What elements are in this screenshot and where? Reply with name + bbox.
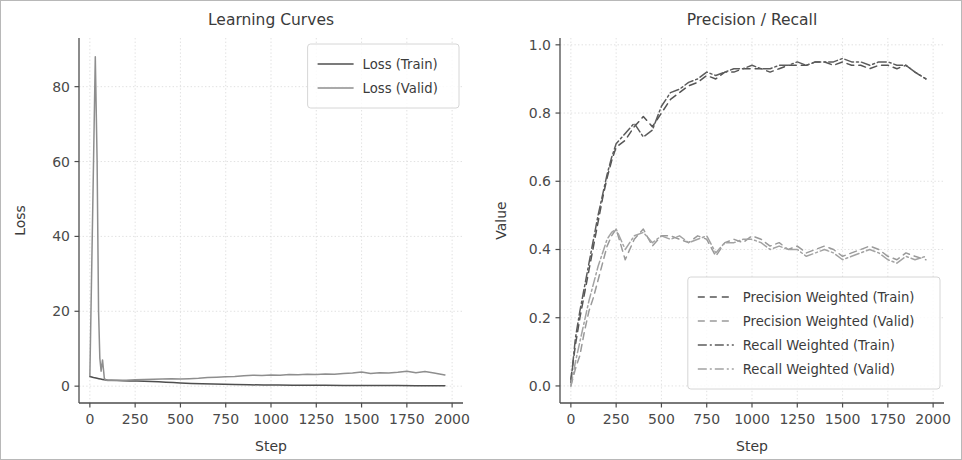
x-tick-label: 1250 (298, 411, 334, 427)
x-axis-label: Step (255, 438, 287, 454)
x-tick-label: 250 (603, 411, 630, 427)
chart-svg-learning-curves: 025050075010001250150017502000020406080L… (1, 1, 482, 460)
legend-label: Recall Weighted (Valid) (743, 362, 895, 377)
series-line-loss-train (90, 376, 445, 385)
y-tick-label: 60 (52, 154, 70, 170)
legend-learning-curves: Loss (Train)Loss (Valid) (308, 44, 459, 108)
x-tick-label: 0 (566, 411, 575, 427)
chart-panel-learning-curves: 025050075010001250150017502000020406080L… (1, 1, 482, 460)
legend-label: Recall Weighted (Train) (743, 338, 895, 353)
y-tick-label: 80 (52, 79, 70, 95)
legend-label: Precision Weighted (Valid) (743, 314, 915, 329)
y-tick-label: 0.4 (529, 241, 551, 257)
x-tick-label: 750 (212, 411, 239, 427)
y-tick-label: 40 (52, 228, 70, 244)
x-tick-label: 2000 (434, 411, 470, 427)
x-axis-label: Step (736, 438, 768, 454)
y-tick-label: 0 (61, 378, 70, 394)
legend-precision-recall: Precision Weighted (Train)Precision Weig… (688, 277, 940, 389)
chart-title: Learning Curves (208, 11, 334, 29)
chart-title: Precision / Recall (687, 11, 817, 29)
x-tick-label: 1750 (870, 411, 906, 427)
x-tick-label: 1000 (253, 411, 289, 427)
y-tick-label: 1.0 (529, 37, 551, 53)
y-tick-label: 0.0 (529, 378, 551, 394)
legend-box (308, 44, 459, 108)
legend-label: Precision Weighted (Train) (743, 290, 915, 305)
chart-svg-precision-recall: 0250500750100012501500175020000.00.20.40… (482, 1, 962, 460)
x-tick-label: 0 (85, 411, 94, 427)
x-tick-label: 1500 (344, 411, 380, 427)
y-tick-label: 0.6 (529, 173, 551, 189)
y-axis-label: Value (493, 201, 509, 239)
y-axis-label: Loss (12, 205, 28, 236)
legend-label: Loss (Valid) (363, 81, 438, 96)
x-tick-label: 1750 (389, 411, 425, 427)
x-tick-label: 250 (122, 411, 149, 427)
x-tick-label: 500 (167, 411, 194, 427)
x-tick-label: 1500 (825, 411, 861, 427)
y-tick-label: 20 (52, 303, 70, 319)
figure-canvas: 025050075010001250150017502000020406080L… (0, 0, 962, 460)
x-tick-label: 750 (693, 411, 720, 427)
x-tick-label: 1250 (779, 411, 815, 427)
chart-panel-precision-recall: 0250500750100012501500175020000.00.20.40… (482, 1, 962, 460)
x-tick-label: 1000 (734, 411, 770, 427)
x-tick-label: 2000 (915, 411, 951, 427)
legend-label: Loss (Train) (363, 57, 438, 72)
x-tick-label: 500 (648, 411, 675, 427)
y-tick-label: 0.2 (529, 310, 551, 326)
y-tick-label: 0.8 (529, 105, 551, 121)
